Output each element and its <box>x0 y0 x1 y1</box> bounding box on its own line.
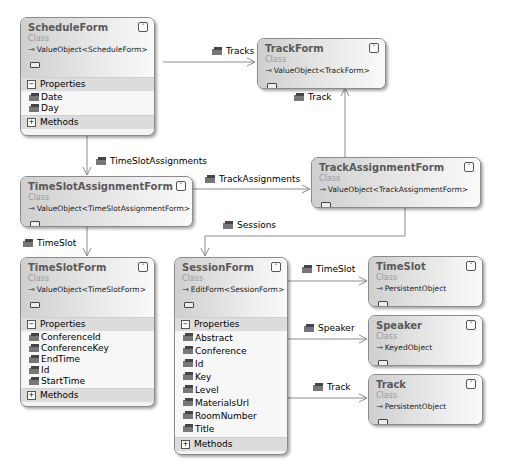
property-icon <box>29 333 39 341</box>
inheritance-icon: ⊸ <box>28 204 35 213</box>
collapse-toggle-icon[interactable]: ˄ <box>271 262 281 272</box>
class-scheduleform[interactable]: ScheduleForm Class ⊸ValueObject<Schedule… <box>20 17 155 136</box>
class-name: ScheduleForm <box>28 21 148 34</box>
property-icon <box>96 157 106 165</box>
property-item[interactable]: RoomNumber <box>175 410 287 423</box>
section-methods[interactable]: +Methods <box>21 115 154 129</box>
class-stereotype: Class <box>376 273 476 283</box>
class-name: TimeSlotAssignmentForm <box>28 180 186 193</box>
expand-toggle-icon[interactable]: ˅ <box>176 181 186 191</box>
collapse-toggle-icon[interactable]: ˄ <box>138 22 148 32</box>
class-stereotype: Class <box>376 391 476 401</box>
class-base: ⊸ValueObject<TrackAssignmentForm> <box>319 184 474 195</box>
property-item[interactable]: StartTime <box>21 376 154 387</box>
assoc-label-timeslot-left: TimeSlot <box>23 238 76 249</box>
inheritance-icon: ⊸ <box>265 66 272 75</box>
property-icon <box>294 93 304 101</box>
lock-icon <box>30 62 40 68</box>
property-item[interactable]: Title <box>175 423 287 436</box>
property-icon <box>223 221 233 229</box>
class-stereotype: Class <box>28 193 186 203</box>
lock-icon <box>378 419 388 425</box>
class-trackassignmentform[interactable]: TrackAssignmentForm Class ⊸ValueObject<T… <box>311 157 481 208</box>
lock-icon <box>30 302 40 308</box>
class-header: Track Class ⊸PersistentObject ˅ <box>369 375 482 424</box>
expand-toggle-icon[interactable]: ˅ <box>466 379 476 389</box>
property-item[interactable]: EndTime <box>21 354 154 365</box>
property-icon <box>29 104 39 112</box>
property-icon <box>304 324 314 332</box>
class-timeslot[interactable]: TimeSlot Class ⊸PersistentObject ˅ <box>368 256 483 307</box>
class-track[interactable]: Track Class ⊸PersistentObject ˅ <box>368 374 483 425</box>
class-header: TimeSlot Class ⊸PersistentObject ˅ <box>369 257 482 306</box>
class-base: ⊸ValueObject<TrackForm> <box>265 65 379 76</box>
section-methods[interactable]: +Methods <box>21 388 154 402</box>
inheritance-icon: ⊸ <box>319 185 326 194</box>
assoc-label-track-up: Track <box>294 92 332 103</box>
class-stereotype: Class <box>265 55 379 65</box>
class-name: Track <box>376 378 476 391</box>
class-stereotype: Class <box>28 34 148 44</box>
class-timeslotform[interactable]: TimeSlotForm Class ⊸ValueObject<TimeSlot… <box>20 257 155 407</box>
class-stereotype: Class <box>28 274 148 284</box>
class-header: ScheduleForm Class ⊸ValueObject<Schedule… <box>21 18 154 77</box>
property-item[interactable]: ConferenceKey <box>21 343 154 354</box>
property-item[interactable]: Day <box>21 103 154 114</box>
lock-icon <box>30 221 40 227</box>
property-icon <box>29 93 39 101</box>
property-icon <box>183 372 193 380</box>
collapse-toggle-icon[interactable]: ˄ <box>138 262 148 272</box>
property-item[interactable]: Level <box>175 384 287 397</box>
class-stereotype: Class <box>319 174 474 184</box>
assoc-label-track: Track <box>313 382 351 393</box>
property-icon <box>205 175 215 183</box>
property-item[interactable]: ConferenceId <box>21 332 154 343</box>
expand-toggle-icon[interactable]: ˅ <box>466 261 476 271</box>
class-name: TimeSlot <box>376 260 476 273</box>
minus-icon: − <box>27 320 36 329</box>
inheritance-icon: ⊸ <box>376 343 383 352</box>
inheritance-icon: ⊸ <box>376 284 383 293</box>
expand-toggle-icon[interactable]: ˅ <box>464 162 474 172</box>
property-item[interactable]: Id <box>175 358 287 371</box>
minus-icon: − <box>181 320 190 329</box>
section-properties[interactable]: −Properties <box>21 317 154 331</box>
property-item[interactable]: Date <box>21 92 154 103</box>
class-base: ⊸EditForm<SessionForm> <box>182 284 281 295</box>
property-item[interactable]: Id <box>21 365 154 376</box>
section-properties[interactable]: −Properties <box>21 77 154 91</box>
class-base: ⊸ValueObject<ScheduleForm> <box>28 44 148 55</box>
section-properties[interactable]: −Properties <box>175 317 287 331</box>
class-header: SessionForm Class ⊸EditForm<SessionForm>… <box>175 258 287 317</box>
plus-icon: + <box>181 440 190 449</box>
class-header: TimeSlotForm Class ⊸ValueObject<TimeSlot… <box>21 258 154 317</box>
class-header: TimeSlotAssignmentForm Class ⊸ValueObjec… <box>21 177 192 226</box>
plus-icon: + <box>27 118 36 127</box>
lock-icon <box>184 302 194 308</box>
property-icon <box>183 346 193 354</box>
class-header: TrackForm Class ⊸ValueObject<TrackForm> … <box>258 39 385 88</box>
expand-toggle-icon[interactable]: ˅ <box>369 43 379 53</box>
class-header: TrackAssignmentForm Class ⊸ValueObject<T… <box>312 158 480 207</box>
class-timeslotassignmentform[interactable]: TimeSlotAssignmentForm Class ⊸ValueObjec… <box>20 176 193 227</box>
assoc-label-sessions: Sessions <box>223 220 276 231</box>
expand-toggle-icon[interactable]: ˅ <box>466 320 476 330</box>
property-item[interactable]: MaterialsUrl <box>175 397 287 410</box>
class-header: Speaker Class ⊸KeyedObject ˅ <box>369 316 482 365</box>
inheritance-icon: ⊸ <box>28 285 35 294</box>
inheritance-icon: ⊸ <box>376 402 383 411</box>
property-item[interactable]: Conference <box>175 345 287 358</box>
class-speaker[interactable]: Speaker Class ⊸KeyedObject ˅ <box>368 315 483 366</box>
assoc-label-trackassignments: TrackAssignments <box>205 174 300 185</box>
property-item[interactable]: Key <box>175 371 287 384</box>
class-base: ⊸ValueObject<TimeSlotForm> <box>28 284 148 295</box>
class-trackform[interactable]: TrackForm Class ⊸ValueObject<TrackForm> … <box>257 38 386 89</box>
section-methods[interactable]: +Methods <box>175 437 287 451</box>
lock-icon <box>378 301 388 307</box>
property-icon <box>29 355 39 363</box>
class-name: TrackForm <box>265 42 379 55</box>
property-icon <box>302 265 312 273</box>
class-sessionform[interactable]: SessionForm Class ⊸EditForm<SessionForm>… <box>174 257 288 455</box>
class-name: TrackAssignmentForm <box>319 161 474 174</box>
property-item[interactable]: Abstract <box>175 332 287 345</box>
